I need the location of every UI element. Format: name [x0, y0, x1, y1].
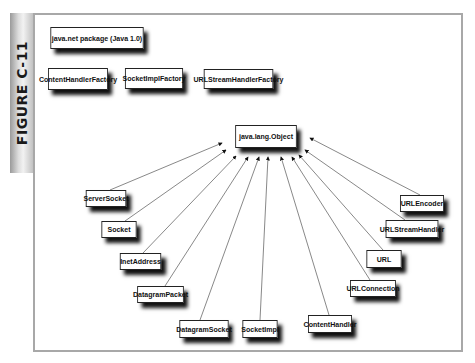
class-box: URLEncoder — [400, 195, 444, 212]
class-box: ContentHandler — [308, 315, 352, 333]
package-title-box: java.net package (Java 1.0) — [50, 27, 143, 49]
class-box: Socket — [101, 221, 136, 238]
interface-box: ContentHandlerFactory — [48, 68, 108, 90]
class-box: URLStreamHandler — [386, 220, 439, 238]
class-box: DatagramSocket — [179, 320, 228, 338]
class-box: SocketImpl — [242, 320, 277, 338]
class-box: URLConnection — [350, 280, 396, 297]
interface-box: URLStreamHandlerFactory — [204, 69, 274, 89]
class-box: DatagramPacket — [137, 286, 184, 303]
class-box: URL — [366, 250, 401, 268]
inheritance-arrows — [0, 0, 475, 363]
root-class-box: java.lang.Object — [235, 125, 297, 148]
class-box: InetAddress — [120, 253, 161, 270]
interface-box: SocketImplFactory — [125, 68, 183, 89]
class-box: ServerSocket — [86, 190, 126, 207]
